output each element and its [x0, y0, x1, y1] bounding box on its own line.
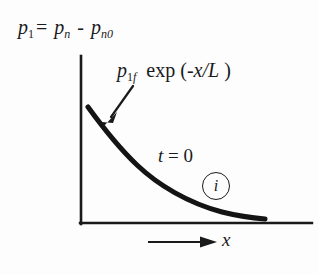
time-label-equals: = [168, 145, 179, 166]
curve-label-close-paren: ) [224, 59, 231, 81]
curve-pointer-arrow [102, 86, 133, 126]
curve-label-open-paren: ( [180, 59, 187, 81]
curve-label-L-variable: L [208, 59, 219, 81]
y-label-pn0-subscript: n0 [101, 27, 113, 41]
y-label-p1-symbol: p [18, 16, 28, 38]
y-label-equals: = [34, 16, 49, 38]
figure-canvas [0, 0, 319, 275]
curve-label-minus: - [187, 59, 194, 81]
circled-marker-label: i [214, 178, 218, 194]
curve-label-exp-text: exp [146, 59, 175, 81]
curve-equation-label: p1f exp (-x/L ) [117, 60, 231, 83]
y-label-minus: - [75, 16, 86, 38]
x-axis-label: x [222, 230, 230, 249]
circled-index-marker: i [202, 172, 230, 200]
y-label-pn-symbol: p [54, 16, 64, 38]
time-label-t-symbol: t [158, 145, 163, 166]
time-label-value: 0 [184, 145, 194, 166]
curve-label-subscript-f: f [133, 70, 136, 84]
y-label-pn-subscript: n [64, 27, 70, 41]
curve-label-p-symbol: p [117, 59, 127, 81]
time-annotation-label: t = 0 [158, 146, 193, 165]
y-axis-label: p1= pn - pn0 [18, 17, 113, 40]
y-label-pn0-symbol: p [91, 16, 101, 38]
x-direction-arrow [148, 237, 217, 248]
